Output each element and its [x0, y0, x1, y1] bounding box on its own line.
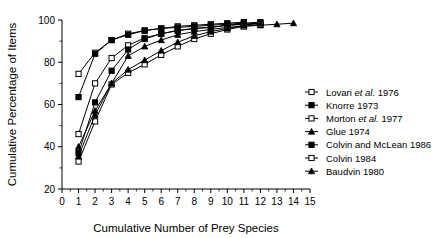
y-axis-title: Cumulative Percentage of Items [6, 22, 18, 186]
y-tick-label: 40 [44, 141, 56, 152]
data-point [125, 66, 131, 72]
figure-container: 012345678910111213141520406080100 Lovari… [0, 0, 441, 238]
x-tick-label: 11 [239, 196, 250, 207]
x-tick-label: 10 [222, 196, 234, 207]
legend-label: Morton et al. 1977 [326, 113, 403, 124]
data-point [126, 47, 131, 52]
legend-entry-1: Knorre 1973 [305, 100, 378, 111]
data-point [109, 37, 114, 42]
data-point [175, 28, 180, 33]
data-point [76, 95, 81, 100]
series-5 [76, 22, 263, 165]
series-6 [75, 20, 263, 159]
legend-entry-4: Colvin and McLean 1986 [305, 139, 431, 150]
legend-entry-0: Lovari et al. 1976 [305, 87, 399, 98]
x-tick-label: 4 [125, 196, 131, 207]
data-point [92, 81, 97, 86]
x-tick-label: 0 [59, 196, 65, 207]
data-point [159, 31, 164, 36]
x-tick-label: 3 [109, 196, 115, 207]
series-2 [76, 21, 263, 137]
legend-marker [309, 142, 314, 147]
x-tick-label: 2 [92, 196, 98, 207]
data-point [192, 26, 197, 31]
legend-label: Colvin 1984 [326, 153, 376, 164]
x-axis-title: Cumulative Number of Prey Species [93, 222, 279, 234]
legend-label: Lovari et al. 1976 [326, 87, 399, 98]
x-tick-label: 9 [208, 196, 214, 207]
x-tick-label: 1 [76, 196, 82, 207]
x-tick-label: 13 [271, 196, 283, 207]
data-point [158, 47, 164, 53]
series-4 [76, 21, 263, 156]
data-point [125, 53, 131, 59]
legend-entry-3: Glue 1974 [305, 126, 370, 137]
y-tick-label: 20 [44, 184, 56, 195]
series-1 [76, 20, 263, 100]
data-point [142, 36, 147, 41]
data-point [126, 32, 131, 37]
legend-marker [309, 155, 314, 160]
x-tick-label: 14 [288, 196, 300, 207]
legend-label: Baudvin 1980 [326, 166, 384, 177]
x-tick-label: 7 [175, 196, 181, 207]
series-line [79, 23, 261, 134]
data-point [142, 28, 147, 33]
y-tick-label: 60 [44, 99, 56, 110]
data-point [76, 131, 81, 136]
legend-label: Knorre 1973 [326, 100, 378, 111]
legend-label: Glue 1974 [326, 126, 370, 137]
legend-entry-6: Baudvin 1980 [305, 166, 384, 177]
legend-marker [309, 116, 314, 121]
data-point [109, 68, 114, 73]
legend-entry-2: Morton et al. 1977 [305, 113, 403, 124]
y-tick-label: 80 [44, 57, 56, 68]
legend-marker [309, 89, 314, 94]
series-line [79, 23, 261, 153]
data-point [142, 57, 148, 63]
legend-layer: Lovari et al. 1976Knorre 1973Morton et a… [305, 87, 431, 177]
x-tick-label: 15 [304, 196, 316, 207]
data-point [109, 55, 114, 60]
data-point [76, 159, 81, 164]
x-tick-label: 5 [142, 196, 148, 207]
x-tick-label: 6 [158, 196, 164, 207]
data-point [92, 100, 97, 105]
legend-marker [309, 103, 314, 108]
chart-canvas: 012345678910111213141520406080100 Lovari… [0, 0, 441, 238]
data-point [92, 51, 97, 56]
data-point [76, 71, 81, 76]
legend-entry-5: Colvin 1984 [305, 153, 376, 164]
data-point [159, 26, 164, 31]
x-tick-label: 8 [191, 196, 197, 207]
legend-label: Colvin and McLean 1986 [326, 139, 431, 150]
x-tick-label: 12 [255, 196, 267, 207]
series-line [79, 23, 261, 156]
y-tick-label: 100 [38, 15, 55, 26]
series-line [79, 22, 261, 97]
series-layer [75, 20, 296, 165]
